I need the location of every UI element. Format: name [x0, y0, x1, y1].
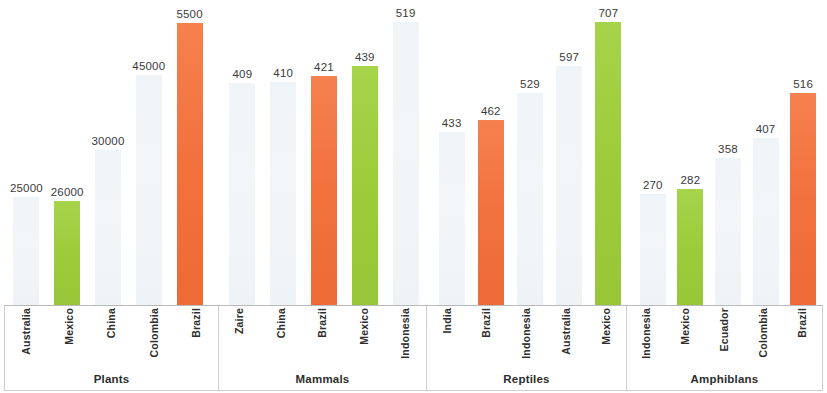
bar-indonesia[interactable]: [393, 22, 419, 305]
bar-ecuador[interactable]: [715, 158, 741, 305]
category-cell: Indonesia: [507, 308, 547, 359]
category-label-colombia: Colombia: [758, 308, 769, 357]
category-cell: China: [90, 308, 133, 338]
category-cell: Indonesia: [627, 308, 666, 359]
bar-zaire[interactable]: [229, 83, 255, 305]
bar-china[interactable]: [270, 82, 296, 305]
bar-colombia[interactable]: [753, 138, 779, 305]
bar-mexico[interactable]: [352, 66, 378, 305]
category-cell: Brazil: [783, 308, 822, 338]
bar-slot: 410: [263, 0, 304, 305]
bar-value-label: 462: [481, 106, 501, 118]
category-label-band: AustraliaMexicoChinaColombiaBrazilPlants…: [4, 306, 823, 391]
bar-slot: 5500: [169, 0, 210, 305]
bar-slot: 516: [784, 0, 822, 305]
group-name-row: Reptiles: [427, 368, 626, 390]
bar-value-label: 45000: [132, 61, 165, 73]
category-cell: Brazil: [467, 308, 507, 338]
bar-value-label: 282: [680, 175, 700, 187]
bar-china[interactable]: [95, 150, 121, 305]
category-cell: Mexico: [586, 308, 626, 345]
bar-slot: 462: [471, 0, 510, 305]
category-cell: Colombia: [133, 308, 176, 357]
bar-brazil[interactable]: [790, 93, 816, 305]
bar-slot: 45000: [128, 0, 169, 305]
bar-slot: 597: [550, 0, 589, 305]
bar-value-label: 30000: [92, 136, 125, 148]
bar-india[interactable]: [439, 132, 465, 305]
category-cell: Ecuador: [705, 308, 744, 351]
plot-area: 2500026000300004500055004094104214395194…: [0, 0, 827, 306]
bar-value-label: 270: [643, 180, 663, 192]
bar-chart: 2500026000300004500055004094104214395194…: [0, 0, 827, 393]
category-label-mexico: Mexico: [680, 308, 691, 345]
category-label-mexico: Mexico: [64, 308, 75, 345]
bar-australia[interactable]: [556, 66, 582, 305]
category-cell: Indonesia: [385, 308, 426, 359]
category-cell: Mexico: [666, 308, 705, 345]
category-cell: India: [427, 308, 467, 334]
category-row: ZaireChinaBrazilMexicoIndonesia: [219, 306, 426, 368]
bar-slot: 30000: [88, 0, 129, 305]
bar-indonesia[interactable]: [640, 194, 666, 305]
category-label-mexico: Mexico: [359, 308, 370, 345]
bar-value-label: 529: [520, 79, 540, 91]
bar-mexico[interactable]: [54, 201, 80, 305]
category-cell: Australia: [5, 308, 48, 355]
bar-slot: 25000: [6, 0, 47, 305]
group-name-row: Plants: [5, 368, 218, 390]
category-row: AustraliaMexicoChinaColombiaBrazil: [5, 306, 218, 368]
category-label-zaire: Zaire: [234, 308, 245, 334]
category-cell: Zaire: [219, 308, 260, 334]
bar-group-plants: 250002600030000450005500: [6, 0, 210, 305]
label-group-mammals: ZaireChinaBrazilMexicoIndonesiaMammals: [219, 306, 427, 390]
bar-indonesia[interactable]: [517, 93, 543, 305]
group-name-mammals: Mammals: [296, 373, 350, 385]
bar-brazil[interactable]: [177, 23, 203, 305]
bar-brazil[interactable]: [311, 76, 337, 305]
bar-slot: 421: [304, 0, 345, 305]
category-row: IndiaBrazilIndonesiaAustraliaMexico: [427, 306, 626, 368]
category-label-australia: Australia: [21, 308, 32, 355]
bar-brazil[interactable]: [478, 120, 504, 305]
category-label-mexico: Mexico: [601, 308, 612, 345]
group-name-amphiblans: Amphiblans: [691, 373, 759, 385]
category-label-brazil: Brazil: [317, 308, 328, 338]
bar-slot: 707: [589, 0, 628, 305]
bar-value-label: 597: [559, 52, 579, 64]
bar-value-label: 358: [718, 144, 738, 156]
category-cell: China: [260, 308, 301, 338]
bar-slot: 270: [634, 0, 672, 305]
category-label-china: China: [106, 308, 117, 338]
bar-value-label: 410: [273, 68, 293, 80]
category-label-india: India: [442, 308, 453, 334]
category-label-ecuador: Ecuador: [719, 308, 730, 351]
bar-slot: 26000: [47, 0, 88, 305]
category-label-brazil: Brazil: [797, 308, 808, 338]
category-cell: Brazil: [302, 308, 343, 338]
label-group-reptiles: IndiaBrazilIndonesiaAustraliaMexicoRepti…: [427, 306, 627, 390]
label-group-amphiblans: IndonesiaMexicoEcuadorColombiaBrazilAmph…: [627, 306, 822, 390]
bar-value-label: 409: [233, 69, 253, 81]
group-name-plants: Plants: [94, 373, 130, 385]
bar-slot: 433: [432, 0, 471, 305]
bar-slot: 529: [510, 0, 549, 305]
bar-slot: 358: [709, 0, 747, 305]
category-label-australia: Australia: [561, 308, 572, 355]
bar-colombia[interactable]: [136, 75, 162, 305]
bar-value-label: 421: [314, 62, 334, 74]
bar-mexico[interactable]: [595, 22, 621, 305]
bar-australia[interactable]: [13, 197, 39, 305]
bar-slot: 407: [747, 0, 785, 305]
bar-slot: 409: [222, 0, 263, 305]
bar-slot: 439: [344, 0, 385, 305]
category-cell: Mexico: [343, 308, 384, 345]
bar-value-label: 433: [442, 118, 462, 130]
bar-group-reptiles: 433462529597707: [432, 0, 628, 305]
bar-group-mammals: 409410421439519: [222, 0, 426, 305]
group-name-row: Mammals: [219, 368, 426, 390]
bar-value-label: 516: [793, 79, 813, 91]
category-cell: Australia: [546, 308, 586, 355]
bar-value-label: 26000: [51, 187, 84, 199]
bar-mexico[interactable]: [677, 189, 703, 305]
